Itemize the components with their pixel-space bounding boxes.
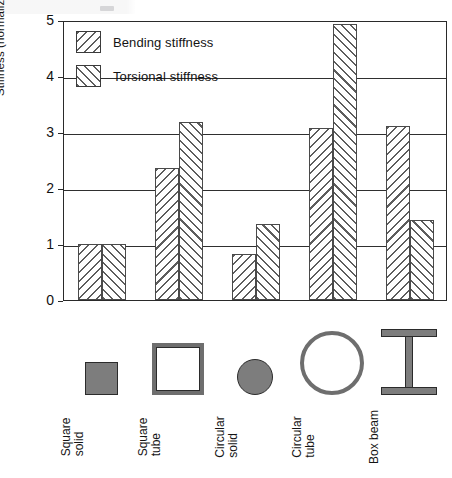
legend: Bending stiffness Torsional stiffness [76, 31, 218, 99]
y-tick-label-4: 4 [32, 68, 54, 84]
circular-tube-icon [293, 313, 370, 395]
y-axis: Stiffness (normalized to square solid) 0… [0, 0, 63, 320]
bar-bending-stiffness-circular-solid [232, 254, 256, 300]
hatch-forwardslash-swatch [76, 65, 101, 87]
box-beam-icon [370, 313, 447, 395]
cross-section-icon-row [63, 313, 447, 395]
y-tick-label-0: 0 [32, 292, 54, 308]
circular-tube-icon-glyph [300, 331, 364, 395]
x-axis-label-cell: Circularsolid [217, 396, 294, 478]
legend-item-bending: Bending stiffness [76, 31, 218, 53]
bar-bending-stiffness-circular-tube [309, 128, 333, 300]
bar-torsional-stiffness-square-solid [102, 244, 126, 300]
x-axis-label-circular-tube: Circulartube [291, 416, 373, 457]
circular-solid-icon [217, 313, 294, 395]
x-axis-label-circular-solid: Circularsolid [214, 416, 296, 457]
square-tube-icon-glyph [152, 343, 204, 395]
x-axis-label-cell: Squaretube [140, 396, 217, 478]
hatch-backslash-swatch [76, 31, 101, 53]
bar-bending-stiffness-square-solid [78, 244, 102, 300]
box-beam-icon-glyph [381, 329, 437, 395]
bar-torsional-stiffness-circular-solid [256, 224, 280, 300]
plot-area: Bending stiffness Torsional stiffness [63, 21, 447, 301]
x-axis-label-cell: Squaresolid [63, 396, 140, 478]
circular-solid-icon-glyph [237, 359, 273, 395]
bar-torsional-stiffness-circular-tube [333, 24, 357, 300]
bar-bending-stiffness-box-beam [386, 126, 410, 300]
scan-artifact [0, 0, 452, 14]
y-tick-label-5: 5 [32, 12, 54, 28]
square-solid-icon-glyph [85, 362, 118, 395]
legend-label-torsional: Torsional stiffness [113, 69, 218, 84]
x-axis-label-cell: Box beam [370, 396, 447, 478]
x-axis-labels: SquaresolidSquaretubeCircularsolidCircul… [63, 396, 447, 478]
x-axis-label-cell: Circulartube [293, 396, 370, 478]
y-tick-label-3: 3 [32, 124, 54, 140]
x-axis-label-square-solid: Squaresolid [60, 418, 142, 457]
y-tick-label-1: 1 [32, 236, 54, 252]
bar-torsional-stiffness-box-beam [410, 220, 434, 300]
square-tube-icon [140, 313, 217, 395]
bar-torsional-stiffness-square-tube [179, 122, 203, 300]
x-axis-label-square-tube: Squaretube [137, 418, 219, 457]
y-tick-label-2: 2 [32, 180, 54, 196]
square-solid-icon [63, 313, 140, 395]
y-axis-title: Stiffness (normalized to square solid) [0, 0, 6, 96]
legend-label-bending: Bending stiffness [113, 35, 213, 50]
x-axis-label-box-beam: Box beam [368, 410, 450, 464]
bar-bending-stiffness-square-tube [155, 168, 179, 300]
legend-item-torsional: Torsional stiffness [76, 65, 218, 87]
y-tick-mark-0 [58, 301, 63, 302]
